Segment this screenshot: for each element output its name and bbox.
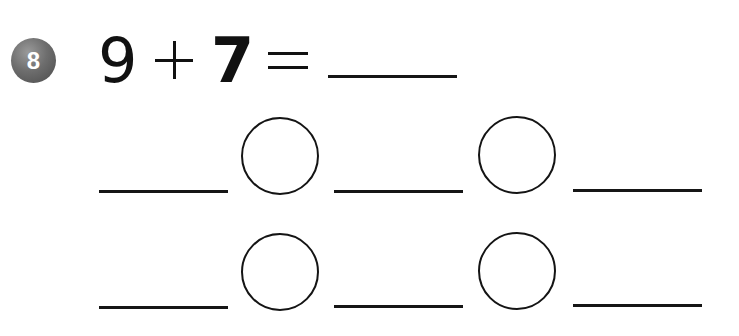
row1-blank-2[interactable] [334, 190, 463, 193]
row1-blank-1[interactable] [99, 190, 228, 193]
row2-blank-2[interactable] [334, 305, 463, 308]
problem-number-badge: 8 [11, 38, 56, 83]
answer-blank[interactable] [328, 75, 457, 78]
row2-operator-circle-2[interactable] [478, 232, 556, 310]
equals-sign-icon [268, 52, 308, 69]
row2-blank-3[interactable] [573, 304, 702, 307]
plus-sign-icon [155, 41, 193, 79]
row2-operator-circle-1[interactable] [241, 233, 319, 311]
operand-a: 9 [98, 30, 137, 92]
problem-number: 8 [27, 49, 40, 73]
row2-blank-1[interactable] [99, 306, 228, 309]
row1-operator-circle-2[interactable] [478, 116, 556, 194]
operand-b: 7 [211, 30, 254, 92]
row1-operator-circle-1[interactable] [241, 117, 319, 195]
row1-blank-3[interactable] [573, 189, 702, 192]
